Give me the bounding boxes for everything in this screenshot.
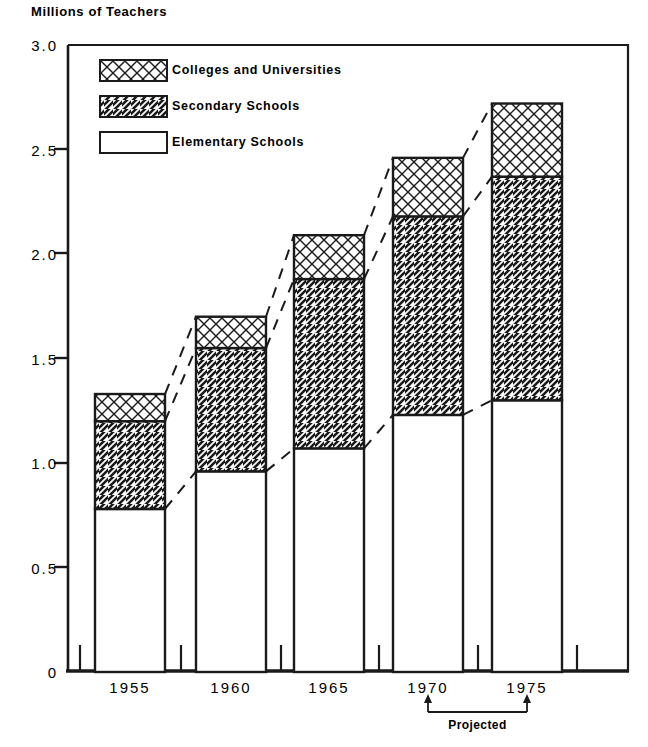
bar-group-1965 bbox=[294, 235, 364, 672]
legend-label-elementary: Elementary Schools bbox=[172, 135, 304, 149]
bar-segment bbox=[196, 348, 266, 471]
bar-segment bbox=[393, 216, 463, 415]
y-tick-label: 0 bbox=[0, 664, 58, 681]
y-axis-title: Millions of Teachers bbox=[31, 4, 167, 19]
bars-layer bbox=[95, 104, 562, 672]
bar-segment bbox=[294, 279, 364, 448]
bar-segment bbox=[95, 509, 165, 672]
y-tick-label: 2.5 bbox=[0, 141, 58, 158]
x-tick-label-1965: 1965 bbox=[279, 679, 379, 696]
x-tick-label-1960: 1960 bbox=[181, 679, 281, 696]
x-tick-label-1955: 1955 bbox=[80, 679, 180, 696]
legend-label-colleges: Colleges and Universities bbox=[172, 63, 342, 77]
bar-group-1975 bbox=[492, 104, 562, 672]
bar-group-1970 bbox=[393, 158, 463, 672]
projected-annotation-label: Projected bbox=[428, 718, 527, 732]
bar-segment bbox=[492, 400, 562, 672]
bar-segment bbox=[95, 394, 165, 421]
bar-segment bbox=[492, 104, 562, 177]
chart-container: Millions of Teachers bbox=[0, 0, 648, 747]
y-tick-label: 3.0 bbox=[0, 37, 58, 54]
bar-segment bbox=[393, 158, 463, 217]
y-tick-label: 2.0 bbox=[0, 246, 58, 263]
x-tick-label-1970: 1970 bbox=[378, 679, 478, 696]
y-tick-label: 1.0 bbox=[0, 455, 58, 472]
x-tick-label-1975: 1975 bbox=[477, 679, 577, 696]
bar-segment bbox=[294, 448, 364, 672]
bar-group-1960 bbox=[196, 317, 266, 672]
legend-swatch-elementary bbox=[100, 132, 167, 153]
projected-bracket bbox=[424, 694, 531, 712]
bar-segment bbox=[95, 421, 165, 509]
y-tick-label: 1.5 bbox=[0, 350, 58, 367]
bar-segment bbox=[393, 415, 463, 672]
legend-swatch-colleges bbox=[100, 60, 167, 81]
y-tick-label: 0.5 bbox=[0, 559, 58, 576]
legend-swatch-secondary bbox=[100, 96, 167, 117]
bar-segment bbox=[196, 317, 266, 348]
bar-group-1955 bbox=[95, 394, 165, 672]
bar-segment bbox=[492, 177, 562, 401]
bar-segment bbox=[294, 235, 364, 279]
bar-segment bbox=[196, 471, 266, 672]
legend-label-secondary: Secondary Schools bbox=[172, 99, 300, 113]
